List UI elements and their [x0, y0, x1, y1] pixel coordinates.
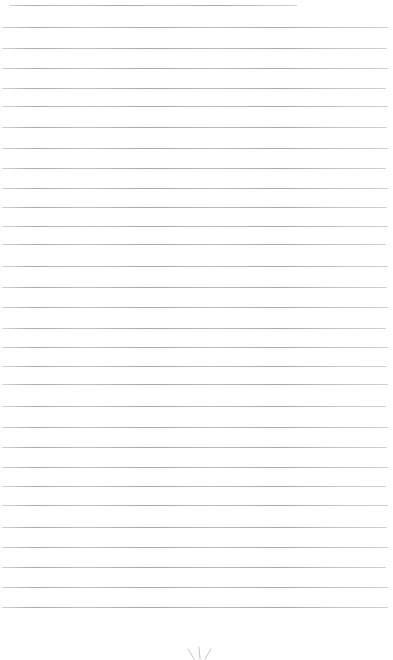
rule-line [2, 366, 387, 367]
rule-line [2, 427, 388, 428]
rule-line [2, 244, 386, 245]
rule-line [2, 27, 388, 28]
rule-line [2, 527, 387, 528]
partial-asterisk-icon [0, 0, 393, 660]
asterisk-ray-stroke [205, 649, 211, 659]
asterisk-ray-stroke [188, 649, 194, 659]
rule-line [2, 88, 386, 89]
rule-line [2, 328, 386, 329]
rule-line [2, 188, 388, 189]
asterisk-ray-stroke [199, 647, 200, 659]
rule-line [2, 287, 387, 288]
rule-line [2, 607, 388, 608]
rule-line [2, 467, 388, 468]
rule-line [2, 106, 388, 107]
rule-line [2, 226, 388, 227]
rule-line [2, 148, 388, 149]
rule-line [2, 547, 388, 548]
rule-line [9, 5, 297, 6]
rule-line [2, 168, 386, 169]
rule-line [2, 207, 387, 208]
rule-line [2, 347, 388, 348]
rule-line [2, 567, 386, 568]
rule-line [2, 68, 388, 69]
rule-line [2, 406, 386, 407]
ruled-paper-page [0, 0, 393, 660]
rule-line [2, 486, 386, 487]
rule-line [2, 587, 388, 588]
rule-line [2, 48, 387, 49]
rule-line [2, 384, 388, 385]
rule-line [2, 447, 387, 448]
rule-line [2, 307, 388, 308]
rule-line [2, 505, 388, 506]
rule-line [2, 127, 387, 128]
rule-line [2, 266, 388, 267]
